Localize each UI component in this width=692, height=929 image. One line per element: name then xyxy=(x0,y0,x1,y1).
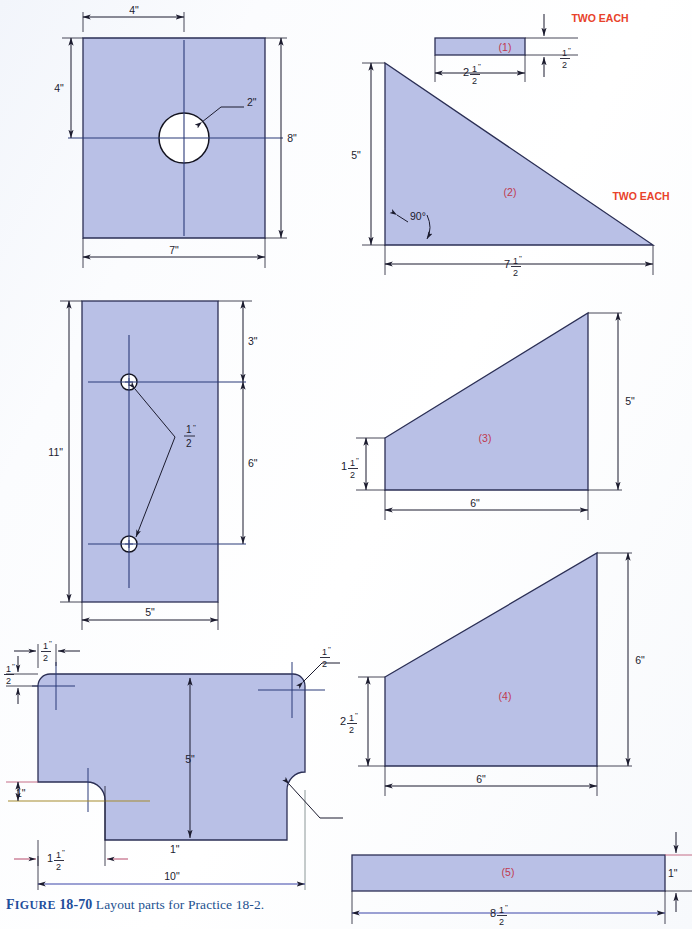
svg-text:": " xyxy=(568,46,571,55)
svg-text:": " xyxy=(193,423,196,432)
svg-text:": " xyxy=(328,645,331,654)
dim-text-top-right-radius: 1 " 2 xyxy=(320,645,331,669)
svg-text:": " xyxy=(356,456,359,465)
figure-caption-label: FIGURE xyxy=(6,898,56,912)
svg-text:2: 2 xyxy=(350,470,355,480)
svg-text:2: 2 xyxy=(472,76,477,86)
figure-page: 4" 4" 8" 7" 2" (1) xyxy=(0,0,692,929)
dim-text-1in-notch: 1" xyxy=(16,787,26,799)
svg-text:": " xyxy=(49,639,52,648)
svg-text:2: 2 xyxy=(562,60,567,70)
part-label-5: (5) xyxy=(502,866,515,878)
dim-text-triangle-height: 5" xyxy=(351,149,361,161)
part-notched-plate: 5" 1" 1" 10" 1 " 2 1 " 2 xyxy=(4,639,343,890)
figure-caption-label-rest: IGURE xyxy=(15,898,56,912)
svg-text:1: 1 xyxy=(513,256,518,266)
svg-text:1: 1 xyxy=(186,424,192,435)
dim-text-p3-left: 1 1 " 2 xyxy=(341,456,359,480)
dim-text-1in-radius: 1" xyxy=(170,843,180,855)
leader-bottom-right-radius xyxy=(289,784,343,818)
svg-text:": " xyxy=(62,848,65,857)
svg-text:2: 2 xyxy=(322,659,327,669)
figure-caption-number: 18-70 xyxy=(59,897,92,912)
dim-text-bar1-length: 2 1 " 2 xyxy=(463,62,481,86)
note-two-each-top: TWO EACH xyxy=(571,12,628,24)
svg-text:2: 2 xyxy=(6,676,11,686)
part-plate-two-holes: 11" 3" 6" 5" 1 " 2 xyxy=(48,301,257,630)
part-label-4: (4) xyxy=(499,690,512,702)
dim-text-7in: 7" xyxy=(169,244,179,256)
svg-text:": " xyxy=(12,662,15,671)
svg-text:8: 8 xyxy=(490,907,496,919)
dim-text-p4-left: 2 1 " 2 xyxy=(340,711,358,735)
dim-text-p4-base: 6" xyxy=(476,773,486,785)
part-label-3: (3) xyxy=(479,432,492,444)
dim-text-triangle-base: 7 1 " 2 xyxy=(504,254,522,278)
dim-text-p5-length: 8 1 " 2 xyxy=(490,903,508,927)
svg-text:1: 1 xyxy=(562,48,567,58)
svg-text:2: 2 xyxy=(43,653,48,663)
trapezoid-4-body xyxy=(385,553,597,766)
svg-text:1: 1 xyxy=(56,850,61,860)
svg-text:2: 2 xyxy=(463,66,469,78)
dim-text-8in: 8" xyxy=(287,132,297,144)
svg-text:1: 1 xyxy=(349,713,354,723)
dim-text-notch-offset: 1 1 " 2 xyxy=(47,848,65,872)
dim-text-4in-left: 4" xyxy=(54,82,64,94)
dim-text-p4-right: 6" xyxy=(635,654,645,666)
figure-caption: FIGURE 18-70 Layout parts for Practice 1… xyxy=(6,897,264,913)
svg-text:2: 2 xyxy=(349,725,354,735)
dim-text-bar1-thickness: 1 " 2 xyxy=(560,46,571,70)
svg-text:1: 1 xyxy=(350,458,355,468)
figure-caption-text: Layout parts for Practice 18-2. xyxy=(96,897,264,912)
part-label-1: (1) xyxy=(499,41,512,53)
svg-text:": " xyxy=(478,62,481,71)
dim-text-5in-height: 5" xyxy=(185,753,195,765)
dim-text-left-offset: 1 " 2 xyxy=(41,639,52,663)
svg-text:1: 1 xyxy=(47,852,53,864)
part-trapezoid-4: 6" (4) 6" 2 1 " 2 xyxy=(340,553,645,796)
svg-text:1: 1 xyxy=(472,64,477,74)
part-label-2: (2) xyxy=(504,186,517,198)
svg-text:7: 7 xyxy=(504,258,510,270)
dim-text-2in-hole: 2" xyxy=(247,96,257,108)
part-bar-5: (5) 1" 8 1 " 2 xyxy=(352,832,692,927)
dim-text-90deg: 90° xyxy=(410,210,426,222)
svg-text:2: 2 xyxy=(340,715,346,727)
dim-text-p3-base: 6" xyxy=(470,497,480,509)
svg-text:2: 2 xyxy=(499,917,504,927)
part-triangle-2: 5" 90° (2) 7 1 " 2 xyxy=(351,63,653,278)
note-two-each-mid: TWO EACH xyxy=(612,190,669,202)
dim-text-3in: 3" xyxy=(248,335,258,347)
svg-text:1: 1 xyxy=(322,647,327,657)
dim-text-p5-thickness: 1" xyxy=(668,867,678,879)
svg-text:2: 2 xyxy=(513,268,518,278)
plate-two-holes-body xyxy=(82,301,218,602)
dim-text-4in-top: 4" xyxy=(129,4,139,16)
dim-text-10in: 10" xyxy=(164,870,180,882)
svg-text:": " xyxy=(505,903,508,912)
figure-caption-label-first: F xyxy=(6,897,15,912)
part-plate-with-hole: 4" 4" 8" 7" 2" xyxy=(54,4,297,268)
svg-text:2: 2 xyxy=(186,438,192,449)
dim-text-11in: 11" xyxy=(48,446,63,458)
svg-text:1: 1 xyxy=(43,641,48,651)
dim-text-p3-right: 5" xyxy=(625,395,635,407)
part-trapezoid-3: 5" (3) 6" 1 1 " 2 xyxy=(341,313,635,520)
svg-text:2: 2 xyxy=(56,862,61,872)
technical-drawing-canvas: 4" 4" 8" 7" 2" (1) xyxy=(0,0,692,929)
svg-text:": " xyxy=(519,254,522,263)
part-bar-1: (1) 2 1 " 2 1 " 2 xyxy=(435,14,578,86)
trapezoid-3-body xyxy=(385,313,588,490)
dim-text-5in-width: 5" xyxy=(145,606,155,618)
svg-text:1: 1 xyxy=(6,664,11,674)
bar-1-body xyxy=(435,38,525,55)
svg-text:1: 1 xyxy=(341,460,347,472)
notched-plate-body xyxy=(38,674,305,840)
svg-text:1: 1 xyxy=(499,905,504,915)
svg-text:": " xyxy=(355,711,358,720)
dim-text-6in: 6" xyxy=(248,457,258,469)
